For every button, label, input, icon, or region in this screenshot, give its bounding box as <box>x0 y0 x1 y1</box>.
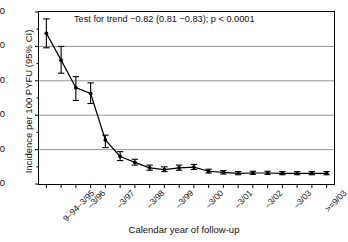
x-tick-label: –3/97 <box>115 188 137 210</box>
error-bars <box>43 19 330 175</box>
y-axis-title: Incidence per 100 PYFU (95% CI) <box>23 12 34 192</box>
x-axis-title: Calendar year of follow-up <box>0 224 346 235</box>
x-tick-label: –3/03 <box>292 188 314 210</box>
x-tick-label: –3/98 <box>144 188 166 210</box>
data-point <box>310 171 314 175</box>
x-tick-label: –3/01 <box>233 188 255 210</box>
y-tick-label: 40 <box>0 40 5 50</box>
data-point <box>148 166 152 170</box>
y-tick-label: 30 <box>0 75 5 85</box>
x-tick-label: –3/99 <box>174 188 196 210</box>
data-point <box>295 171 299 175</box>
data-point <box>103 138 107 142</box>
chart-canvas <box>39 12 334 184</box>
data-point <box>89 92 93 96</box>
data-point <box>59 58 63 62</box>
data-point <box>118 155 122 159</box>
data-point <box>44 31 48 35</box>
plot-area <box>38 11 335 185</box>
data-point <box>251 171 255 175</box>
x-tick-label: >=9/03 <box>323 188 348 214</box>
data-point <box>207 169 211 173</box>
y-tick-label: 0 <box>0 178 5 188</box>
data-point <box>236 171 240 175</box>
x-tick-label: –3/02 <box>262 188 284 210</box>
y-axis-ticks <box>35 12 39 184</box>
y-tick-label: 20 <box>0 109 5 119</box>
data-point <box>192 165 196 169</box>
data-point <box>133 160 137 164</box>
data-point <box>162 168 166 172</box>
data-point <box>74 86 78 90</box>
y-tick-label: 10 <box>0 144 5 154</box>
data-markers <box>44 31 328 175</box>
gridlines <box>39 46 334 149</box>
data-point <box>280 171 284 175</box>
data-point <box>266 171 270 175</box>
data-point <box>221 170 225 174</box>
data-point <box>177 166 181 170</box>
data-point <box>325 171 329 175</box>
y-tick-label: 50 <box>0 6 5 16</box>
x-tick-label: –3/00 <box>203 188 225 210</box>
